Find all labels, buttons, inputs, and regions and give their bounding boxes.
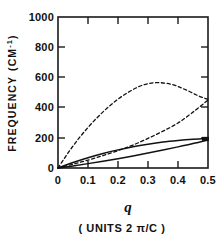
frequency-dispersion-chart: 0 0.1 0.2 0.3 0.4 0.5 0 200 400 600 800 …: [0, 0, 224, 245]
y-tick-label: 400: [35, 101, 54, 113]
y-axis-ticks-right: [201, 47, 208, 138]
marker-layer: [202, 137, 209, 141]
y-axis-title-main: FREQUENCY: [6, 76, 18, 152]
y-axis-title-exponent: -1: [5, 39, 14, 48]
x-axis-variable-symbol: q: [124, 199, 132, 215]
figure-container: 0 0.1 0.2 0.3 0.4 0.5 0 200 400 600 800 …: [0, 0, 224, 245]
y-axis-title-units: (CM: [6, 48, 18, 71]
y-tick-label: 800: [35, 41, 54, 53]
x-tick-label: 0.4: [170, 174, 187, 186]
y-axis-ticks-left: [58, 47, 65, 138]
data-series-layer: [58, 83, 208, 168]
series-upper-solid-branch: [58, 138, 208, 168]
x-axis-units-label: ( UNITS 2 π/C ): [78, 222, 165, 234]
y-axis-title-group: FREQUENCY(CM-1): [5, 34, 18, 151]
x-axis-ticks-top: [88, 17, 178, 24]
y-tick-label: 600: [35, 71, 54, 83]
x-tick-label: 0.3: [140, 174, 156, 186]
series-lower-solid-branch: [58, 140, 208, 168]
y-tick-label: 0: [48, 162, 54, 174]
series-acoustic-branch-dashed: [58, 100, 208, 168]
x-tick-label: 0.5: [200, 174, 216, 186]
x-tick-label: 0.1: [80, 174, 96, 186]
endpoint-marker: [202, 137, 209, 141]
y-axis-title-units-close: ): [6, 34, 18, 39]
y-axis-title: FREQUENCY(CM-1): [5, 34, 18, 151]
x-tick-labels: 0 0.1 0.2 0.3 0.4 0.5: [55, 174, 216, 186]
y-tick-labels: 0 200 400 600 800 1000: [29, 11, 54, 174]
x-tick-label: 0.2: [110, 174, 126, 186]
x-tick-label: 0: [55, 174, 61, 186]
y-tick-label: 200: [35, 132, 54, 144]
y-tick-label: 1000: [29, 11, 54, 23]
